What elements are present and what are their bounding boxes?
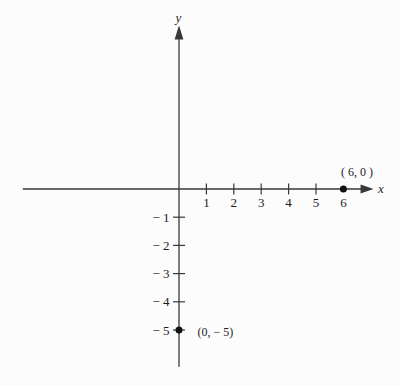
x-tick-label: 3 <box>258 195 265 210</box>
axes-layer <box>23 25 374 366</box>
x-tick-label: 1 <box>203 195 210 210</box>
coordinate-plane: 123456− 1− 2− 3− 4− 5 ( 6, 0 )(0, − 5) x… <box>0 0 400 386</box>
x-tick-label: 6 <box>340 195 347 210</box>
y-tick-label: − 2 <box>152 238 169 253</box>
y-tick-label: − 4 <box>152 294 170 309</box>
x-axis-letter: x <box>377 181 384 196</box>
data-point-label: ( 6, 0 ) <box>341 165 373 179</box>
x-tick-label: 2 <box>231 195 238 210</box>
figure-container: 123456− 1− 2− 3− 4− 5 ( 6, 0 )(0, − 5) x… <box>0 0 400 386</box>
x-tick-label: 4 <box>285 195 292 210</box>
y-tick-label: − 1 <box>152 210 169 225</box>
y-tick-label: − 3 <box>152 266 169 281</box>
points-layer: ( 6, 0 )(0, − 5) <box>176 165 373 339</box>
data-point <box>340 186 347 193</box>
data-point <box>176 327 183 334</box>
x-axis-arrowhead <box>361 185 374 194</box>
y-axis-arrowhead <box>175 25 184 39</box>
x-tick-label: 5 <box>313 195 320 210</box>
y-axis-letter: y <box>174 10 182 25</box>
y-tick-label: − 5 <box>152 323 169 338</box>
ticks-layer: 123456− 1− 2− 3− 4− 5 <box>152 184 347 338</box>
data-point-label: (0, − 5) <box>198 325 234 339</box>
